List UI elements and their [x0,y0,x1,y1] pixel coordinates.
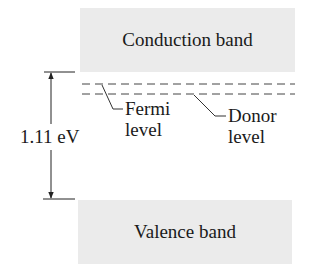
fermi-label-line2: level [125,119,170,140]
donor-leader [194,95,226,116]
fermi-leader [102,85,123,109]
donor-level-label: Donor level [228,105,277,147]
band-gap-label: 1.11 eV [19,126,80,147]
fermi-level-label: Fermi level [125,98,170,140]
donor-label-line2: level [228,126,277,147]
fermi-label-line1: Fermi [125,98,170,119]
donor-label-line1: Donor [228,105,277,126]
